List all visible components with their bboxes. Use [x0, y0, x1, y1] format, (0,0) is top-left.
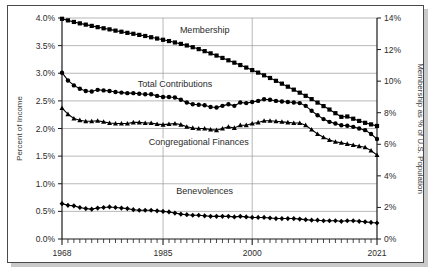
y-axis-left-tick-label: 2.5% — [36, 96, 56, 106]
x-axis-tick-label: 1968 — [53, 248, 72, 258]
y-axis-right-tick-label: 14% — [384, 13, 401, 23]
series-label-benevolences: Benevolences — [176, 186, 233, 196]
data-point-square — [107, 27, 111, 31]
data-point-square — [298, 91, 302, 95]
data-point-diamond — [268, 215, 273, 220]
data-point-circle — [60, 70, 64, 74]
data-point-diamond — [71, 203, 76, 208]
data-point-circle — [232, 104, 236, 108]
data-point-diamond — [184, 212, 189, 217]
data-point-circle — [262, 97, 266, 101]
data-point-square — [137, 33, 141, 37]
data-point-square — [197, 47, 201, 51]
data-point-circle — [179, 98, 183, 102]
data-point-square — [226, 58, 230, 62]
y-axis-left-tick-label: 1.5% — [36, 151, 56, 161]
data-point-circle — [84, 89, 88, 93]
y-axis-left-tick-label: 2.0% — [36, 124, 56, 134]
data-point-diamond — [77, 205, 82, 210]
data-point-diamond — [208, 214, 213, 219]
data-point-square — [167, 39, 171, 43]
data-point-diamond — [95, 205, 100, 210]
data-point-circle — [226, 102, 230, 106]
data-point-diamond — [113, 205, 118, 210]
data-point-diamond — [256, 215, 261, 220]
y-axis-right-tick-label: 0% — [384, 234, 397, 244]
data-point-circle — [185, 100, 189, 104]
series-line — [62, 108, 377, 155]
y-axis-left-tick-label: 0.0% — [36, 234, 56, 244]
data-point-diamond — [250, 215, 255, 220]
data-point-square — [292, 88, 296, 92]
data-point-circle — [202, 103, 206, 107]
data-point-square — [333, 111, 337, 115]
data-point-square — [375, 124, 379, 128]
data-point-diamond — [357, 219, 362, 224]
data-point-circle — [143, 92, 147, 96]
series-label-total-contributions: Total Contributions — [138, 79, 213, 89]
data-point-circle — [238, 100, 242, 104]
data-point-diamond — [375, 220, 380, 225]
data-point-circle — [256, 99, 260, 103]
data-point-square — [208, 51, 212, 55]
data-point-circle — [149, 92, 153, 96]
data-point-circle — [339, 123, 343, 127]
data-point-circle — [95, 88, 99, 92]
data-point-square — [268, 76, 272, 80]
data-point-square — [250, 68, 254, 72]
data-point-triangle — [321, 135, 326, 140]
data-point-triangle — [369, 148, 374, 153]
data-point-diamond — [143, 208, 148, 213]
y-axis-right-tick-label: 6% — [384, 139, 397, 149]
data-point-circle — [220, 104, 224, 108]
data-point-square — [78, 21, 82, 25]
data-point-diamond — [262, 215, 267, 220]
data-point-circle — [280, 99, 284, 103]
data-point-diamond — [149, 208, 154, 213]
data-point-diamond — [137, 208, 142, 213]
chart-svg: 0.0%0.5%1.0%1.5%2.0%2.5%3.0%3.5%4.0%0%2%… — [0, 0, 439, 277]
data-point-diamond — [309, 218, 314, 223]
data-point-square — [310, 97, 314, 101]
data-point-circle — [244, 101, 248, 105]
data-point-diamond — [339, 219, 344, 224]
data-point-square — [131, 32, 135, 36]
data-point-diamond — [226, 214, 231, 219]
data-point-circle — [274, 99, 278, 103]
x-axis-tick-label: 2000 — [243, 248, 262, 258]
data-point-square — [96, 25, 100, 29]
data-point-circle — [72, 83, 76, 87]
chart-figure: 0.0%0.5%1.0%1.5%2.0%2.5%3.0%3.5%4.0%0%2%… — [0, 0, 439, 277]
data-point-circle — [351, 125, 355, 129]
data-point-square — [315, 101, 319, 105]
data-point-square — [125, 31, 129, 35]
y-axis-left-tick-label: 1.0% — [36, 179, 56, 189]
data-point-square — [304, 94, 308, 98]
data-point-circle — [303, 104, 307, 108]
data-point-circle — [268, 98, 272, 102]
y-axis-right-tick-label: 2% — [384, 202, 397, 212]
data-point-diamond — [327, 218, 332, 223]
data-point-square — [357, 119, 361, 123]
data-point-square — [262, 73, 266, 77]
y-axis-left-tick-label: 4.0% — [36, 13, 56, 23]
data-point-diamond — [369, 220, 374, 225]
data-point-diamond — [202, 213, 207, 218]
data-point-circle — [333, 121, 337, 125]
data-point-diamond — [232, 214, 237, 219]
data-point-diamond — [280, 216, 285, 221]
data-point-square — [327, 107, 331, 111]
data-point-circle — [191, 102, 195, 106]
data-point-circle — [155, 94, 159, 98]
data-point-square — [90, 24, 94, 28]
y-axis-right-tick-label: 4% — [384, 171, 397, 181]
data-point-diamond — [238, 214, 243, 219]
data-point-square — [66, 18, 70, 22]
data-point-circle — [250, 100, 254, 104]
data-point-square — [363, 121, 367, 125]
data-point-circle — [363, 128, 367, 132]
data-point-square — [113, 29, 117, 33]
data-point-square — [161, 38, 165, 42]
data-point-square — [149, 35, 153, 39]
data-point-circle — [357, 126, 361, 130]
